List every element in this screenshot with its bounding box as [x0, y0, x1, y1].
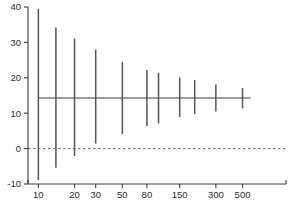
- error-bars-group: [38, 9, 242, 180]
- y-tick-labels-group: 403020100-10: [7, 1, 21, 189]
- y-tick-label: 30: [10, 37, 21, 48]
- x-tick-label: 500: [235, 189, 251, 200]
- y-tick-label: 0: [16, 143, 21, 154]
- x-axis-group: [28, 180, 286, 188]
- y-axis-group: [24, 7, 28, 184]
- x-tick-label: 20: [69, 189, 80, 200]
- x-tick-label: 80: [142, 189, 153, 200]
- x-tick-label: 10: [33, 189, 44, 200]
- x-tick-label: 300: [208, 189, 224, 200]
- chart-container: 403020100-10 1020305080150300500: [0, 0, 299, 212]
- chart-svg: 403020100-10 1020305080150300500: [0, 0, 299, 212]
- y-tick-label: 10: [10, 108, 21, 119]
- x-tick-label: 30: [90, 189, 101, 200]
- x-tick-labels-group: 1020305080150300500: [33, 189, 250, 200]
- x-tick-label: 150: [172, 189, 188, 200]
- y-tick-label: 20: [10, 72, 21, 83]
- x-tick-label: 50: [117, 189, 128, 200]
- y-tick-label: 40: [10, 1, 21, 12]
- y-tick-label: -10: [7, 178, 21, 189]
